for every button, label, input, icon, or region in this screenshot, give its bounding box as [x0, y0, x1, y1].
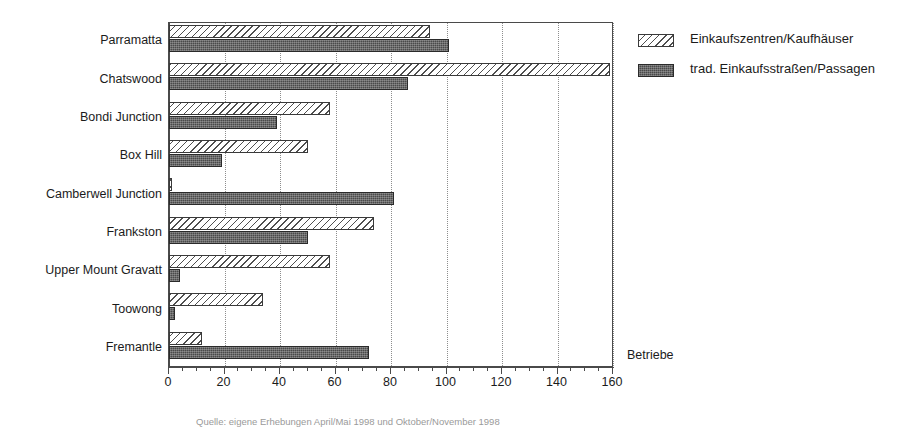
x-tick-major: [279, 367, 280, 374]
x-tick-minor: [570, 367, 571, 371]
bar-group: [169, 138, 612, 176]
bar: [169, 140, 308, 153]
bar: [169, 269, 180, 282]
x-tick-minor: [210, 367, 211, 371]
x-tick-minor: [265, 367, 266, 371]
x-tick-major: [446, 367, 447, 374]
category-label: Bondi Junction: [0, 110, 162, 124]
bar-group: [169, 23, 612, 61]
x-tick-label: 160: [592, 375, 632, 389]
category-label: Parramatta: [0, 33, 162, 47]
x-tick-minor: [182, 367, 183, 371]
bar: [169, 231, 308, 244]
x-tick-minor: [515, 367, 516, 371]
category-label: Chatswood: [0, 72, 162, 86]
x-axis-line: [168, 367, 614, 368]
category-label: Frankston: [0, 225, 162, 239]
bar: [169, 217, 374, 230]
x-tick-minor: [432, 367, 433, 371]
bar: [169, 116, 277, 129]
x-tick-minor: [529, 367, 530, 371]
legend-swatch-hatch-icon: [638, 34, 674, 47]
bar-group: [169, 291, 612, 329]
x-tick-major: [557, 367, 558, 374]
bar: [169, 63, 610, 76]
plot-area: [168, 22, 613, 367]
x-tick-minor: [237, 367, 238, 371]
legend-label: Einkaufszentren/Kaufhäuser: [690, 31, 853, 46]
bar: [169, 332, 202, 345]
bar-group: [169, 253, 612, 291]
x-tick-minor: [376, 367, 377, 371]
category-label: Upper Mount Gravatt: [0, 263, 162, 277]
category-label: Fremantle: [0, 340, 162, 354]
source-note: Quelle: eigene Erhebungen April/Mai 1998…: [196, 416, 500, 427]
x-tick-label: 120: [481, 375, 521, 389]
x-tick-minor: [543, 367, 544, 371]
bar-group: [169, 61, 612, 99]
x-tick-minor: [362, 367, 363, 371]
bar-group: [169, 330, 612, 368]
bar: [169, 77, 408, 90]
x-tick-major: [224, 367, 225, 374]
x-tick-minor: [404, 367, 405, 371]
bar: [169, 178, 172, 191]
x-tick-label: 100: [426, 375, 466, 389]
category-label: Toowong: [0, 302, 162, 316]
x-tick-minor: [307, 367, 308, 371]
x-tick-major: [612, 367, 613, 374]
x-tick-minor: [418, 367, 419, 371]
x-tick-major: [168, 367, 169, 374]
legend-swatch-stipple-icon: [638, 64, 674, 77]
x-axis-title: Betriebe: [627, 348, 674, 362]
x-tick-minor: [321, 367, 322, 371]
category-label: Box Hill: [0, 148, 162, 162]
bar-group: [169, 215, 612, 253]
x-tick-major: [501, 367, 502, 374]
bar-chart: ParramattaChatswoodBondi JunctionBox Hil…: [0, 0, 917, 427]
legend-label: trad. Einkaufsstraßen/Passagen: [690, 61, 875, 76]
bar: [169, 192, 394, 205]
x-tick-minor: [348, 367, 349, 371]
x-tick-major: [335, 367, 336, 374]
x-tick-label: 20: [204, 375, 244, 389]
x-tick-minor: [459, 367, 460, 371]
x-tick-minor: [473, 367, 474, 371]
x-tick-minor: [584, 367, 585, 371]
x-tick-label: 60: [315, 375, 355, 389]
bar-group: [169, 100, 612, 138]
gridline: [613, 23, 614, 366]
bar: [169, 154, 222, 167]
x-tick-label: 0: [148, 375, 188, 389]
x-tick-major: [390, 367, 391, 374]
bar: [169, 39, 449, 52]
bar: [169, 25, 430, 38]
bar: [169, 255, 330, 268]
x-tick-minor: [293, 367, 294, 371]
bar: [169, 307, 175, 320]
x-tick-minor: [598, 367, 599, 371]
x-tick-minor: [251, 367, 252, 371]
x-tick-label: 140: [537, 375, 577, 389]
x-tick-minor: [487, 367, 488, 371]
bar: [169, 346, 369, 359]
bar-group: [169, 176, 612, 214]
x-tick-minor: [196, 367, 197, 371]
category-label: Camberwell Junction: [0, 187, 162, 201]
x-tick-label: 40: [259, 375, 299, 389]
bar: [169, 293, 263, 306]
x-tick-label: 80: [370, 375, 410, 389]
bar: [169, 102, 330, 115]
